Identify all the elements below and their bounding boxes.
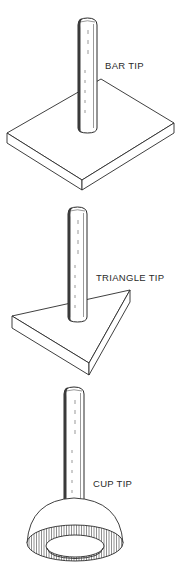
triangle-rod <box>68 207 87 322</box>
triangle-tip-drawing <box>12 207 130 375</box>
cup-tip-label: CUP TIP <box>93 479 132 489</box>
bar-rod <box>78 18 97 133</box>
bar-tip-drawing <box>7 18 174 190</box>
cup-rod <box>64 387 84 502</box>
bar-tip-label: BAR TIP <box>105 61 144 71</box>
triangle-tip-label: TRIANGLE TIP <box>96 273 164 283</box>
welding-tips-diagram: BAR TIP TRIANGLE TIP CUP TIP <box>0 0 182 564</box>
cup-tip-drawing <box>27 387 123 564</box>
